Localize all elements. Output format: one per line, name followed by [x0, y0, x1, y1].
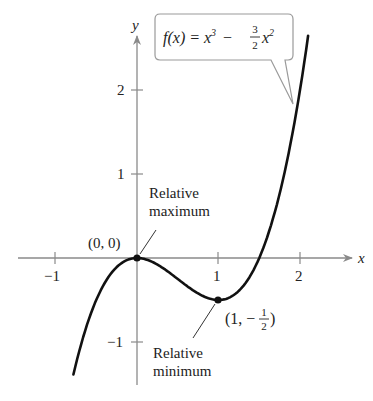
y-axis-label: y [130, 17, 139, 33]
y-tick-label-neg1: −1 [107, 334, 123, 350]
min-label-line1: Relative [153, 345, 203, 361]
min-label-line2: minimum [153, 363, 212, 379]
relative-maximum-point [133, 254, 140, 261]
svg-text:2: 2 [261, 320, 267, 332]
x-axis-label: x [357, 250, 365, 266]
x-tick-label-1: 1 [213, 268, 221, 284]
x-tick-label-2: 2 [295, 268, 303, 284]
min-coord-label: (1, − 1 2 ) [225, 306, 275, 332]
y-tick-label-1: 1 [117, 166, 125, 182]
svg-text:): ) [270, 310, 275, 328]
max-label-line1: Relative [149, 185, 199, 201]
min-leader-line [193, 304, 215, 338]
max-leader-line [140, 230, 156, 254]
svg-text:1: 1 [261, 306, 267, 318]
svg-text:3: 3 [252, 23, 258, 35]
relative-minimum-point [214, 296, 221, 303]
svg-text:2: 2 [252, 39, 258, 51]
svg-text:(1, −: (1, − [225, 310, 255, 328]
svg-text:f(x) = x3 −: f(x) = x3 − [163, 27, 232, 47]
y-tick-label-2: 2 [117, 82, 125, 98]
max-coord-label: (0, 0) [88, 235, 121, 252]
max-label-line2: maximum [149, 203, 210, 219]
function-chart: x y −1 1 2 2 1 −1 Relative maximum (0, 0… [0, 0, 373, 401]
x-tick-label-neg1: −1 [44, 268, 60, 284]
